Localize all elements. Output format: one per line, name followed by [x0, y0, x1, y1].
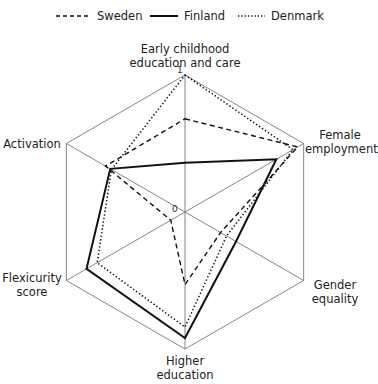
axis-label-flex-line2: score — [0, 285, 64, 299]
axis-label-ecec-line1: Early childhood — [120, 42, 250, 56]
axis-label-gender-equality: Gender equality — [304, 278, 366, 306]
axis-label-female-line2: employment — [305, 142, 375, 156]
series-denmark — [97, 75, 293, 327]
radar-grid — [66, 75, 303, 349]
axis-spoke — [66, 212, 185, 281]
axis-label-higher-line1: Higher — [150, 354, 220, 368]
tick-label-one: 1 — [177, 65, 183, 75]
axis-label-ecec-line2: education and care — [120, 56, 250, 70]
axis-label-activation: Activation — [0, 137, 64, 151]
axis-label-higher-education: Higher education — [150, 354, 220, 382]
axis-label-higher-line2: education — [150, 368, 220, 382]
series-sweden — [106, 119, 298, 285]
axis-label-gender-line1: Gender — [304, 278, 366, 292]
axis-label-ecec: Early childhood education and care — [120, 42, 250, 70]
axis-label-female-line1: Female — [305, 128, 375, 142]
axis-label-flex-line1: Flexicurity — [0, 271, 64, 285]
tick-label-zero: 0 — [172, 204, 178, 214]
axis-label-activation-line1: Activation — [0, 137, 64, 151]
axis-label-female-employment: Female employment — [305, 128, 375, 156]
axis-label-flexicurity: Flexicurity score — [0, 271, 64, 299]
radar-series — [87, 75, 298, 338]
axis-spoke — [185, 144, 304, 213]
axis-label-gender-line2: equality — [304, 292, 366, 306]
